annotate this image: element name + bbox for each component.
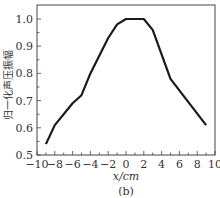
y-tick-label: 0.6 [16,122,34,135]
y-tick-label: 0.5 [16,149,34,162]
x-tick-label: 2 [140,158,147,171]
plot-border [37,5,215,155]
x-axis-ticks: −10−8−6−4−20246810 [25,151,220,171]
x-tick-label: 4 [158,158,165,171]
x-tick-label: −4 [82,158,98,171]
plot-frame [37,5,215,155]
y-tick-label: 0.7 [16,95,34,108]
chart-canvas: −10−8−6−4−20246810 0.50.60.70.80.91.0 x/… [0,0,220,198]
x-tick-label: −6 [64,158,80,171]
y-tick-label: 0.8 [16,67,34,80]
data-line [46,19,206,144]
x-tick-label: −8 [47,158,63,171]
x-axis-label: x/cm [113,170,140,183]
x-tick-label: 6 [176,158,183,171]
figure-caption: (b) [118,185,134,198]
y-tick-label: 0.9 [16,40,34,53]
y-axis-label: 归一化声压振幅 [2,50,14,120]
x-tick-label: 10 [208,158,220,171]
x-tick-label: 8 [194,158,201,171]
y-tick-label: 1.0 [16,13,34,26]
